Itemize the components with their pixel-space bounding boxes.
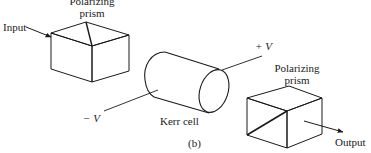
positive-voltage-label: + V: [255, 40, 272, 52]
positive-wire: [222, 56, 262, 70]
negative-voltage-label: − V: [83, 112, 100, 124]
input-arrow: [26, 27, 51, 37]
output-polarizing-prism: [247, 86, 322, 148]
output-prism-label-line1: Polarizing: [257, 62, 337, 74]
kerr-cell-cylinder: [145, 52, 234, 116]
output-prism-label-line2: prism: [257, 74, 337, 86]
output-arrow: [304, 121, 343, 132]
kerr-cell-label: Kerr cell: [160, 115, 199, 127]
kerr-cell-diagram: Polarizing prism Input + V − V Kerr cell…: [0, 0, 371, 153]
input-label: Input: [3, 21, 26, 33]
input-prism-label: Polarizing prism: [62, 0, 122, 19]
panel-label: (b): [188, 137, 201, 149]
input-prism-label-line1: Polarizing: [62, 0, 122, 7]
input-polarizing-prism: [51, 22, 129, 82]
output-label: Output: [335, 136, 366, 148]
output-prism-label: Polarizing prism: [257, 62, 337, 86]
input-prism-label-line2: prism: [62, 7, 122, 19]
